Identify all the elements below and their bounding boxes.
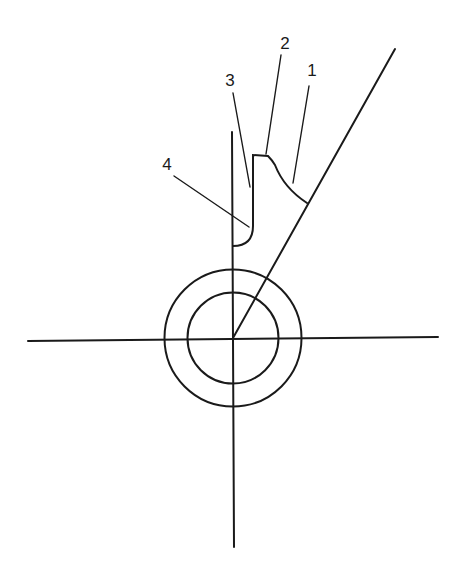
label-4: 4 <box>162 155 171 174</box>
leader-line-4 <box>174 176 249 227</box>
leader-line-3 <box>233 93 250 187</box>
leader-line-1 <box>293 86 309 183</box>
diagonal-line <box>233 49 395 338</box>
diagram-canvas: 1 2 3 4 <box>0 0 458 568</box>
vertical-axis <box>232 132 234 547</box>
label-1: 1 <box>307 61 316 80</box>
label-2: 2 <box>280 34 289 53</box>
label-3: 3 <box>225 71 234 90</box>
leader-line-2 <box>266 55 281 154</box>
